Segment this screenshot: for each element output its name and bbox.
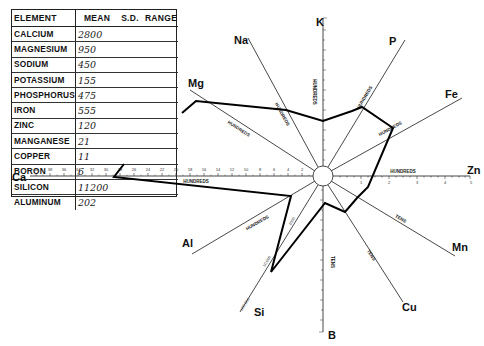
profile-line: [114, 101, 393, 272]
spoke-si: [240, 185, 318, 312]
axis-label-cu: Cu: [402, 301, 417, 313]
svg-text:24: 24: [146, 167, 151, 172]
svg-text:8: 8: [259, 167, 262, 172]
axis-label-fe: Fe: [445, 88, 458, 100]
axis-label-mg: Mg: [188, 77, 204, 89]
svg-text:40: 40: [34, 167, 39, 172]
cu-unit-label: TENS: [366, 249, 377, 262]
svg-text:20: 20: [174, 167, 179, 172]
spoke-p: [328, 40, 405, 167]
zn-tick-labels: 1 2 3 4 5: [360, 180, 473, 185]
svg-text:10: 10: [244, 167, 249, 172]
svg-text:18: 18: [188, 167, 193, 172]
axis-label-b: B: [328, 329, 336, 341]
center-circle: [313, 166, 333, 186]
svg-text:32: 32: [90, 167, 95, 172]
al-unit-label: HUNDREDS: [245, 214, 270, 231]
svg-text:26: 26: [132, 167, 137, 172]
axis-label-ca: Ca: [12, 171, 27, 183]
svg-text:14: 14: [216, 167, 221, 172]
ca-unit-label: HUNDREDS: [183, 179, 209, 184]
radar-chart: 40 38 36 34 32 30 28 26 24 22 20 18 16 1…: [0, 0, 484, 346]
axis-label-al: Al: [182, 237, 193, 249]
axis-label-k: K: [316, 16, 324, 28]
svg-text:34: 34: [76, 167, 81, 172]
si-tick-10000: 10,000: [261, 254, 272, 268]
axis-label-na: Na: [234, 34, 249, 46]
svg-text:30: 30: [104, 167, 109, 172]
svg-text:36: 36: [62, 167, 67, 172]
mn-unit-label: TENS: [394, 213, 407, 223]
mg-unit-label: HUNDREDS: [227, 120, 251, 138]
b-unit-label: TENS: [330, 256, 335, 268]
axis-label-p: P: [389, 35, 396, 47]
zn-unit-label: HUNDREDS: [390, 169, 416, 174]
spoke-cu: [328, 185, 403, 302]
svg-text:38: 38: [48, 167, 53, 172]
ca-tick-labels: 40 38 36 34 32 30 28 26 24 22 20 18 16 1…: [34, 167, 304, 172]
svg-text:4: 4: [444, 180, 447, 185]
svg-text:5: 5: [470, 180, 473, 185]
svg-text:1: 1: [360, 180, 363, 185]
si-tick-100000: 100,000: [239, 296, 251, 312]
svg-text:16: 16: [202, 167, 207, 172]
k-unit-label: HUNDREDS: [312, 79, 317, 105]
axis-label-zn: Zn: [467, 164, 481, 176]
svg-text:22: 22: [160, 167, 165, 172]
svg-text:2: 2: [301, 167, 304, 172]
spoke-fe: [331, 98, 462, 171]
svg-text:12: 12: [230, 167, 235, 172]
svg-text:6: 6: [273, 167, 276, 172]
svg-text:2: 2: [388, 180, 391, 185]
svg-text:4: 4: [287, 167, 290, 172]
spoke-na: [248, 38, 318, 167]
na-unit-label: HUNDREDS: [274, 102, 291, 127]
axis-label-si: Si: [254, 306, 264, 318]
svg-text:3: 3: [416, 180, 419, 185]
spokes: [30, 18, 470, 332]
si-tick-1000: 1000: [287, 215, 296, 226]
axis-label-mn: Mn: [452, 241, 468, 253]
